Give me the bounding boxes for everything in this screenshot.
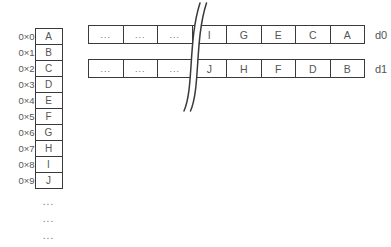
register-cell: ... xyxy=(123,26,158,44)
register-cell: F xyxy=(261,60,296,78)
register-label: d0 xyxy=(375,29,387,41)
memory-column: 0×0 A 0×1 B 0×2 C 0×3 D 0×4 E 0×5 F 0×6 … xyxy=(4,28,63,189)
register-cell: ... xyxy=(89,26,124,44)
register-cell: C xyxy=(296,26,331,44)
memory-row: 0×0 A xyxy=(4,29,62,45)
memory-row: 0×7 H xyxy=(4,141,62,157)
memory-address-label: 0×5 xyxy=(4,109,35,125)
register-cell: J xyxy=(192,60,227,78)
memory-ellipsis: ... xyxy=(35,231,62,241)
memory-address-label: 0×4 xyxy=(4,93,35,109)
memory-cell: F xyxy=(35,109,62,125)
memory-row: 0×5 F xyxy=(4,109,62,125)
memory-register-diagram: 0×0 A 0×1 B 0×2 C 0×3 D 0×4 E 0×5 F 0×6 … xyxy=(0,0,391,247)
register-cell: ... xyxy=(89,60,124,78)
memory-ellipsis: ... xyxy=(35,197,62,207)
register-cell: I xyxy=(192,26,227,44)
memory-cell: B xyxy=(35,45,62,61)
memory-row: 0×1 B xyxy=(4,45,62,61)
break-mark-icon xyxy=(170,0,216,116)
memory-cell: G xyxy=(35,125,62,141)
memory-row: 0×8 I xyxy=(4,157,62,173)
memory-cell: E xyxy=(35,93,62,109)
memory-cell: H xyxy=(35,141,62,157)
memory-ellipsis: ... xyxy=(35,214,62,224)
memory-address-label: 0×3 xyxy=(4,77,35,93)
memory-row: 0×2 C xyxy=(4,61,62,77)
memory-cell: J xyxy=(35,173,62,189)
register-cell: H xyxy=(227,60,262,78)
register-cell: D xyxy=(296,60,331,78)
memory-cell: D xyxy=(35,77,62,93)
memory-row: 0×4 E xyxy=(4,93,62,109)
memory-row: 0×9 J xyxy=(4,173,62,189)
memory-cell: A xyxy=(35,29,62,45)
register-cell: B xyxy=(330,60,365,78)
register-cell: E xyxy=(261,26,296,44)
memory-address-label: 0×9 xyxy=(4,173,35,189)
register-row-d0: ... ... ... I G E C A d0 xyxy=(88,25,387,44)
memory-address-label: 0×8 xyxy=(4,157,35,173)
register-cell: ... xyxy=(123,60,158,78)
memory-address-label: 0×2 xyxy=(4,61,35,77)
memory-cell: I xyxy=(35,157,62,173)
register-row-d1: ... ... ... J H F D B d1 xyxy=(88,59,387,78)
memory-address-label: 0×7 xyxy=(4,141,35,157)
memory-row: 0×3 D xyxy=(4,77,62,93)
memory-row: 0×6 G xyxy=(4,125,62,141)
register-cell: A xyxy=(330,26,365,44)
memory-address-label: 0×1 xyxy=(4,45,35,61)
register-cell: G xyxy=(227,26,262,44)
register-d0-cells: ... ... ... I G E C A xyxy=(88,25,365,44)
register-d1-cells: ... ... ... J H F D B xyxy=(88,59,365,78)
memory-address-label: 0×6 xyxy=(4,125,35,141)
register-label: d1 xyxy=(375,63,387,75)
memory-address-label: 0×0 xyxy=(4,29,35,45)
register-cell: ... xyxy=(158,60,193,78)
register-cell: ... xyxy=(158,26,193,44)
memory-cell: C xyxy=(35,61,62,77)
